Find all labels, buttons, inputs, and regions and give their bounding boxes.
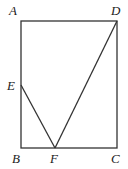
label-f: F	[49, 151, 59, 166]
label-b: B	[12, 151, 20, 166]
label-e: E	[6, 78, 15, 93]
segment-df	[55, 21, 117, 148]
label-d: D	[110, 3, 121, 18]
rectangle-abcd	[21, 21, 117, 148]
label-a: A	[8, 3, 17, 18]
label-c: C	[111, 151, 120, 166]
geometry-diagram: A D E B F C	[0, 0, 128, 169]
segment-ef	[21, 85, 55, 148]
